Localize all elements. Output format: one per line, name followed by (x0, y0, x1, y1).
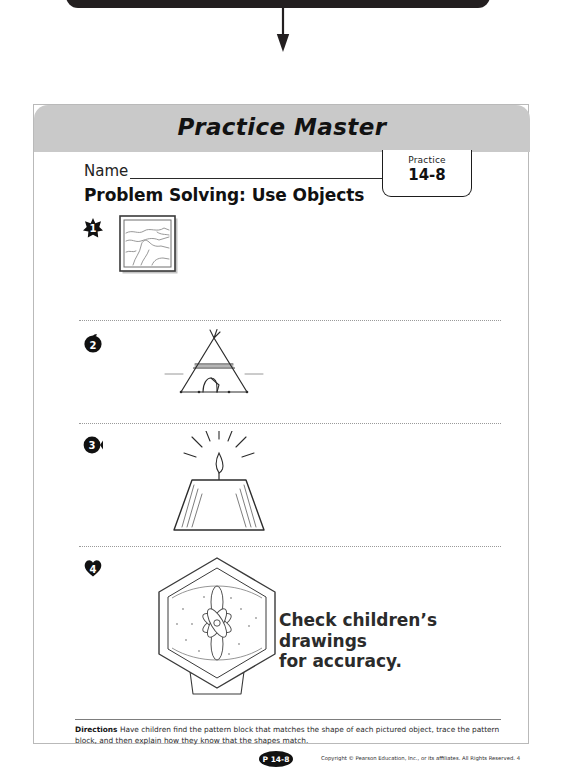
problem-divider-2 (79, 320, 501, 321)
problem-marker-4: 4 (83, 558, 103, 578)
practice-tab-label: Practice (383, 155, 471, 165)
lampshade-with-flame-art (154, 431, 284, 543)
teepee-art (159, 328, 269, 400)
answer-note-line-2: for accuracy. (279, 651, 519, 672)
problem-number-3: 3 (82, 435, 102, 455)
problem-divider-4 (79, 546, 501, 547)
practice-tab-number: 14-8 (383, 166, 471, 184)
problem-item-3: 3 (34, 423, 530, 548)
problem-marker-1: 1 (83, 218, 103, 238)
lesson-title: Problem Solving: Use Objects (84, 185, 364, 205)
problem-divider-3 (79, 423, 501, 424)
name-label: Name (84, 162, 128, 180)
worksheet-page-body: Practice Master Name Practice 14-8 Probl… (33, 104, 529, 744)
answer-note-line-1: Check children’s drawings (279, 610, 519, 651)
practice-master-worksheet: Practice Master Name Practice 14-8 Probl… (33, 58, 529, 744)
practice-number-tab: Practice 14-8 (382, 150, 472, 197)
problem-marker-2: 2 (83, 333, 103, 353)
hexagonal-box-with-flower-art (141, 554, 291, 704)
directions-body: Have children find the pattern block tha… (75, 725, 499, 745)
name-field-row: Name (84, 162, 404, 184)
problem-number-1: 1 (83, 218, 103, 238)
answer-key-note: Check children’s drawings for accuracy. (279, 610, 519, 672)
directions-label: Directions (75, 725, 118, 734)
down-arrow-icon (276, 6, 290, 52)
problem-item-1: 1 (34, 215, 530, 320)
page-title: Practice Master (34, 114, 530, 140)
problem-number-4: 4 (83, 559, 103, 579)
page-number-badge: P 14-8 (259, 751, 293, 767)
copyright-notice: Copyright © Pearson Education, Inc., or … (321, 755, 521, 761)
problem-marker-3: 3 (83, 435, 103, 455)
directions-block: Directions Have children find the patter… (75, 724, 503, 747)
footer-divider (75, 719, 501, 720)
name-write-in-line[interactable] (130, 178, 404, 179)
problem-item-2: 2 (34, 320, 530, 425)
framed-landscape-picture-art (119, 215, 181, 277)
problem-number-2: 2 (83, 335, 103, 355)
